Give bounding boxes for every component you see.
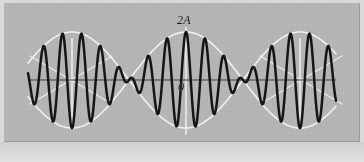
max-amplitude-label: 2A <box>177 14 191 26</box>
origin-label: 0 <box>178 81 184 93</box>
figure-root: 2A 0 <box>0 0 364 162</box>
